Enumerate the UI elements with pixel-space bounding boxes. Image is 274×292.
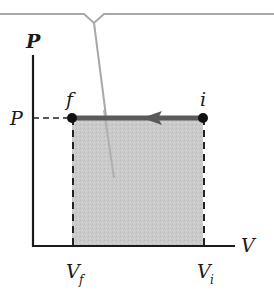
x-axis-label: V bbox=[241, 234, 257, 256]
svg-text:i: i bbox=[210, 273, 214, 287]
point-initial bbox=[198, 113, 208, 123]
svg-text:f: f bbox=[78, 273, 86, 287]
point-final bbox=[67, 113, 77, 123]
pv-diagram: P P f i V V f V i bbox=[0, 0, 274, 292]
vf-label: V f bbox=[66, 260, 86, 287]
pressure-tick-label: P bbox=[9, 107, 24, 129]
vi-label: V i bbox=[197, 260, 214, 287]
point-final-label: f bbox=[64, 88, 76, 110]
y-axis-label: P bbox=[25, 30, 41, 52]
work-area bbox=[72, 118, 203, 246]
point-initial-label: i bbox=[200, 88, 206, 110]
